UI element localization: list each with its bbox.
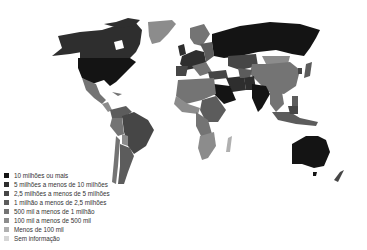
legend-label: Sem informação	[14, 234, 60, 243]
legend-label: 1 milhão a menos de 2,5 milhões	[14, 198, 106, 207]
legend-label: 2,5 milhões a menos de 5 milhões	[14, 189, 110, 198]
legend-item-1m-2-5m: 1 milhão a menos de 2,5 milhões	[4, 198, 110, 207]
region-korea	[298, 68, 302, 74]
region-bolivia	[122, 134, 128, 146]
legend-label: 100 mil a menos de 500 mil	[14, 216, 91, 225]
legend-swatch	[4, 236, 9, 241]
region-russia	[212, 22, 320, 58]
legend-item-100k-500k: 100 mil a menos de 500 mil	[4, 216, 110, 225]
region-southern-africa	[198, 132, 216, 160]
region-tasmania	[313, 172, 317, 176]
legend-label: 10 milhões ou mais	[14, 171, 68, 180]
legend-swatch	[4, 173, 9, 178]
legend-swatch	[4, 182, 9, 187]
region-scandinavia	[190, 24, 210, 46]
legend-item-500k-1m: 500 mil a menos de 1 milhão	[4, 207, 110, 216]
region-greenland	[148, 20, 176, 44]
region-iberia	[176, 66, 188, 76]
region-central-asia	[238, 68, 252, 78]
region-alaska	[52, 32, 82, 56]
region-japan	[304, 62, 312, 78]
legend-item-no-info: Sem informação	[4, 234, 110, 243]
legend-swatch	[4, 200, 9, 205]
region-se-asia	[270, 92, 284, 112]
legend-swatch	[4, 191, 9, 196]
legend-swatch	[4, 218, 9, 223]
legend-label: 500 mil a menos de 1 milhão	[14, 207, 95, 216]
region-peru	[110, 118, 124, 136]
legend-swatch	[4, 209, 9, 214]
legend-item-under-100k: Menos de 100 mil	[4, 225, 110, 234]
legend-label: 5 milhões a menos de 10 milhões	[14, 180, 108, 189]
region-australia	[292, 136, 330, 168]
legend-swatch	[4, 227, 9, 232]
region-caribbean	[112, 92, 122, 96]
region-indonesia	[272, 112, 318, 126]
map-legend: 10 milhões ou mais 5 milhões a menos de …	[4, 171, 110, 243]
region-madagascar	[226, 136, 232, 152]
legend-item-10m-plus: 10 milhões ou mais	[4, 171, 110, 180]
legend-item-2-5m-5m: 2,5 milhões a menos de 5 milhões	[4, 189, 110, 198]
region-new-zealand	[334, 170, 344, 182]
legend-label: Menos de 100 mil	[14, 225, 64, 234]
legend-item-5m-10m: 5 milhões a menos de 10 milhões	[4, 180, 110, 189]
region-canada	[80, 22, 142, 58]
region-uk	[178, 44, 186, 56]
